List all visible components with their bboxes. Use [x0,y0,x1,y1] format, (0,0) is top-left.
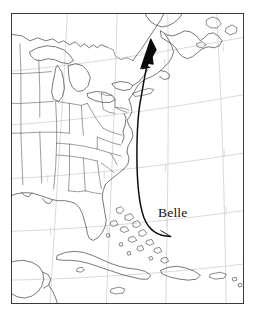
caribbean-islands [12,207,242,303]
canada-outline [12,14,237,61]
great-lakes-group [30,46,148,103]
storm-name-label: Belle [158,206,188,220]
us-coastline [12,34,174,241]
map-canvas [12,14,243,303]
hurricane-track-figure: Belle [0,0,260,318]
graticule-group [12,14,243,303]
map-frame [11,13,244,304]
